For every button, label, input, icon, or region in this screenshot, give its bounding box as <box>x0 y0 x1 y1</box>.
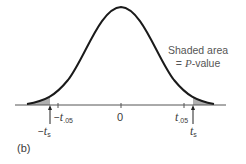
t-distribution-figure: Shaded area = P-value −t.05 0 t.05 −ts t… <box>0 0 246 164</box>
panel-label: (b) <box>17 143 30 154</box>
label-pos-stat: ts <box>190 125 197 138</box>
t-curve-diagram <box>0 0 246 164</box>
label-neg-crit: −t.05 <box>54 111 73 124</box>
annotation-line-2: = P-value <box>168 57 228 70</box>
label-zero: 0 <box>117 112 123 123</box>
p-value-annotation: Shaded area = P-value <box>168 44 228 70</box>
label-neg-stat: −ts <box>38 125 51 138</box>
annotation-line-1: Shaded area <box>168 44 228 57</box>
neg-stat-arrowhead-icon <box>48 105 52 110</box>
label-pos-crit: t.05 <box>175 111 188 124</box>
pos-stat-arrowhead-icon <box>191 105 195 110</box>
